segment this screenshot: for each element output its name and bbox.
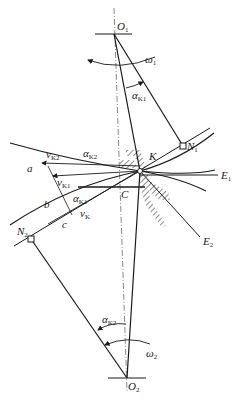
n1-point xyxy=(180,143,186,149)
o2-k-line xyxy=(127,171,140,378)
label-a: a xyxy=(27,162,33,174)
n2-point xyxy=(28,236,34,242)
o2-n2-line xyxy=(31,239,127,378)
label-omega1: ω1 xyxy=(145,53,157,67)
omega2-arc xyxy=(105,340,150,345)
label-o1: O1 xyxy=(117,20,129,34)
label-alphak1-mid: αK1 xyxy=(73,192,88,206)
label-omega2: ω2 xyxy=(146,347,158,361)
label-alphak2-bottom: αK2 xyxy=(102,313,117,327)
label-n2: N2 xyxy=(16,225,28,239)
label-c: C xyxy=(121,188,129,200)
tooth-hatch-left xyxy=(120,160,137,168)
label-vk: vK xyxy=(80,207,90,221)
label-o2: O2 xyxy=(128,380,140,394)
tooth-hatch-lower xyxy=(140,175,166,228)
label-k: K xyxy=(148,150,157,162)
label-n1: N1 xyxy=(186,140,198,154)
k-point xyxy=(138,169,143,174)
label-alphak2-left: αK2 xyxy=(83,147,98,161)
label-b: b xyxy=(44,198,50,210)
gear-mesh-diagram: O1 ω1 αK1 N1 K E1 E2 C a b c vK2 αK2 vK1… xyxy=(0,0,238,400)
tooth-hatch-right xyxy=(148,180,170,200)
label-vk2: vK2 xyxy=(46,148,60,162)
alphak1-top-arc xyxy=(126,82,143,88)
label-vk1: vK1 xyxy=(57,176,71,190)
label-alphak1-top: αK1 xyxy=(132,89,147,103)
label-e2: E2 xyxy=(202,235,214,249)
label-c-curve: c xyxy=(62,218,67,230)
label-e1: E1 xyxy=(220,169,232,183)
vk-perp xyxy=(48,166,72,215)
